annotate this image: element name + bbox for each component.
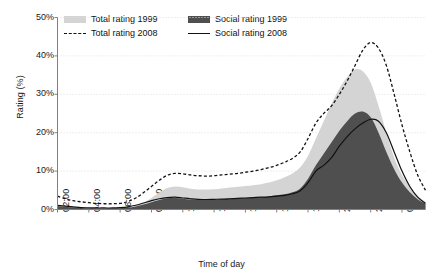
chart-area-series (58, 69, 426, 210)
chart-container: Rating (%) 0%10%20%30%40%50% 02:0004:000… (0, 0, 443, 277)
chart-plot-area (0, 0, 443, 277)
